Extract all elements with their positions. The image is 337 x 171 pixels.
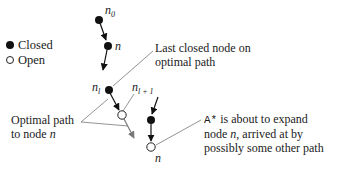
label-n-bottom: n: [155, 151, 161, 165]
annotation-astar: A* is about to expand node n, arrived at…: [204, 112, 324, 155]
pointer-optimal-1: [81, 99, 108, 122]
label-nl: nl: [92, 80, 100, 96]
annotation-last-closed: Last closed node on optimal path: [155, 41, 251, 69]
label-n0: n0: [105, 3, 115, 19]
legend-closed-label: Closed: [18, 38, 53, 52]
closed-dot-icon: [6, 41, 14, 49]
pointer-nl1: [123, 94, 134, 111]
pointer-optimal-2: [81, 122, 128, 126]
node-n0: [95, 16, 103, 24]
pointer-astar: [156, 120, 201, 145]
label-n-upper: n: [115, 39, 121, 53]
open-dot-icon: [6, 56, 14, 64]
label-nl1: nl + 1: [132, 80, 154, 96]
node-right-closed: [147, 116, 155, 124]
node-n-upper: [104, 42, 112, 50]
node-n-bottom: [147, 143, 155, 151]
edge-nl-nl1: [110, 93, 119, 110]
legend-open-label: Open: [18, 53, 45, 67]
annotation-optimal-path: Optimal path to node n: [11, 113, 74, 141]
node-nl1: [118, 111, 126, 119]
legend-open: Open: [6, 53, 45, 67]
edge-n0-n: [100, 23, 106, 40]
edge-incoming-right: [152, 97, 158, 114]
edge-n-continue: [103, 50, 107, 70]
legend-closed: Closed: [6, 38, 53, 52]
node-nl: [105, 86, 113, 94]
edge-nl1-continue: [124, 119, 134, 138]
